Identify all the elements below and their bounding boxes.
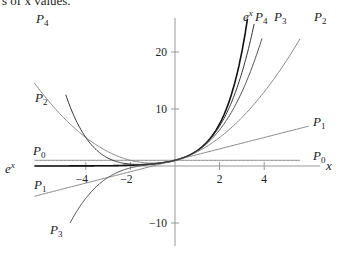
labels: xexexP0P0P1P1P2P2P3P3P4P4 <box>5 8 332 239</box>
series-label-e-x: ex <box>243 8 253 24</box>
curves <box>35 19 309 223</box>
series-label-P1: P1 <box>33 177 46 194</box>
curve-P3 <box>70 38 262 222</box>
y-tick-label: −10 <box>149 217 167 229</box>
curve-P2 <box>35 39 300 163</box>
series-label-P2: P2 <box>34 90 47 107</box>
x-tick-label: 4 <box>261 173 267 185</box>
x-axis-label: x <box>325 158 332 173</box>
series-label-P3: P3 <box>273 9 287 26</box>
series-label-P4: P4 <box>35 11 49 28</box>
x-tick-label: −2 <box>120 173 132 185</box>
y-tick-label: 10 <box>156 103 168 115</box>
series-label-e-x: ex <box>5 160 15 176</box>
series-label-P0: P0 <box>312 148 326 165</box>
series-label-P1: P1 <box>312 114 325 131</box>
y-tick-label: 20 <box>156 46 168 58</box>
series-label-P2: P2 <box>313 9 326 26</box>
series-label-P4: P4 <box>254 9 268 26</box>
series-label-P3: P3 <box>49 222 63 239</box>
x-tick-label: 2 <box>217 173 223 185</box>
taylor-chart: −4−224−101020 xexexP0P0P1P1P2P2P3P3P4P4 <box>0 0 346 254</box>
series-label-P0: P0 <box>32 143 46 160</box>
curve-e-x <box>35 19 248 166</box>
